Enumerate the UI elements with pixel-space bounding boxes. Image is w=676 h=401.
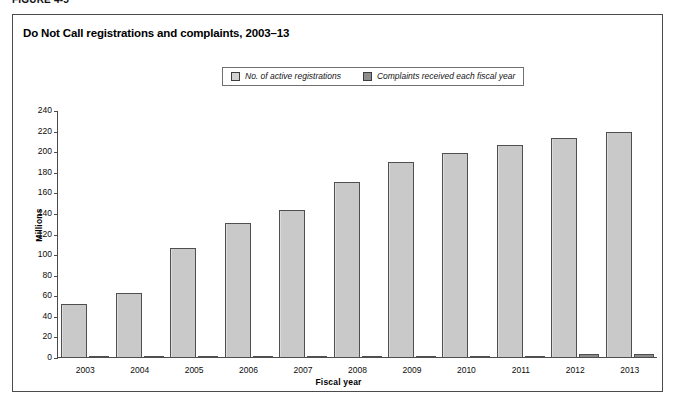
bar-group (551, 111, 599, 358)
bar-series-container (58, 111, 657, 358)
y-axis-tick-label: 120 (38, 229, 52, 239)
bar-registrations (279, 210, 305, 358)
bar-group (116, 111, 164, 358)
bar-registrations (606, 132, 632, 358)
bar-complaints (89, 356, 109, 358)
bar-complaints (634, 354, 654, 358)
bar-group (170, 111, 218, 358)
bar-group (606, 111, 654, 358)
bar-complaints (525, 356, 545, 358)
bar-registrations (116, 293, 142, 358)
x-axis-tick-label: 2009 (392, 365, 432, 375)
y-axis-tick-label: 220 (38, 126, 52, 136)
bar-complaints (253, 356, 273, 358)
bar-registrations (388, 162, 414, 358)
bar-complaints (307, 356, 327, 358)
x-axis-tick-label: 2007 (283, 365, 323, 375)
y-axis-tick-label: 60 (43, 290, 52, 300)
bar-group (279, 111, 327, 358)
x-axis-tick-label: 2011 (501, 365, 541, 375)
bar-complaints (416, 356, 436, 358)
bar-group (61, 111, 109, 358)
x-axis-tick-label: 2004 (120, 365, 160, 375)
y-axis-tick-label: 100 (38, 249, 52, 259)
y-axis-tick-label: 200 (38, 146, 52, 156)
x-axis-title: Fiscal year (13, 377, 664, 387)
x-axis-tick-label: 2012 (555, 365, 595, 375)
bar-group (225, 111, 273, 358)
bar-registrations (225, 223, 251, 358)
bar-group (442, 111, 490, 358)
bar-registrations (442, 153, 468, 358)
figure-frame: Do Not Call registrations and complaints… (12, 14, 663, 392)
chart-plot-area: Millions 0204060801001201401601802002202… (13, 15, 664, 393)
x-axis-tick-label: 2003 (65, 365, 105, 375)
y-axis-tick-label: 160 (38, 187, 52, 197)
bar-complaints (362, 356, 382, 358)
bar-complaints (579, 354, 599, 358)
y-axis-tick-label: 20 (43, 331, 52, 341)
bar-group (388, 111, 436, 358)
bar-registrations (61, 304, 87, 358)
bar-registrations (497, 145, 523, 358)
y-axis-tick-label: 240 (38, 105, 52, 115)
bar-complaints (198, 356, 218, 358)
bar-group (497, 111, 545, 358)
x-axis-tick-label: 2008 (338, 365, 378, 375)
bar-registrations (170, 248, 196, 358)
bar-complaints (144, 356, 164, 358)
bar-registrations (334, 182, 360, 358)
bar-group (334, 111, 382, 358)
y-axis-tick-label: 180 (38, 167, 52, 177)
figure-number-label: FIGURE 4-5 (12, 0, 69, 5)
x-axis-tick-label: 2006 (229, 365, 269, 375)
bar-complaints (470, 356, 490, 358)
x-axis-tick-label: 2005 (174, 365, 214, 375)
y-axis-tick-label: 0 (47, 352, 52, 362)
x-axis-tick-label: 2010 (446, 365, 486, 375)
y-axis-tick-mark (54, 358, 58, 359)
x-axis-tick-label: 2013 (610, 365, 650, 375)
y-axis-tick-label: 40 (43, 311, 52, 321)
y-axis-tick-label: 80 (43, 270, 52, 280)
y-axis-tick-label: 140 (38, 208, 52, 218)
bar-registrations (551, 138, 577, 358)
y-axis-ticks: 020406080100120140160180200220240 (13, 15, 57, 393)
